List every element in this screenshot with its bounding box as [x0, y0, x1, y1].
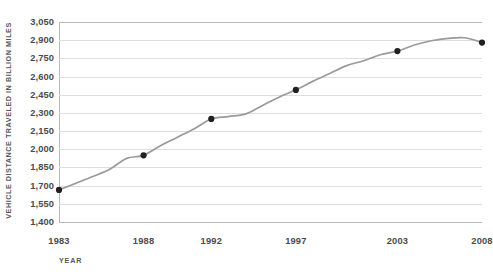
data-point-marker: [141, 152, 147, 158]
y-tick-label: 3,050: [14, 17, 54, 27]
x-tick-label: 1988: [133, 236, 154, 246]
plot-area: [59, 22, 482, 222]
data-point-markers: [56, 40, 485, 193]
y-tick-label: 2,450: [14, 90, 54, 100]
y-tick-label: 1,850: [14, 162, 54, 172]
data-series-layer: [59, 22, 482, 222]
y-tick-label: 2,000: [14, 144, 54, 154]
y-tick-label: 1,700: [14, 181, 54, 191]
x-tick-label: 1983: [48, 236, 69, 246]
y-axis-tick-labels: 1,4001,5501,7001,8502,0002,1502,3002,450…: [14, 0, 54, 240]
y-tick-label: 2,750: [14, 53, 54, 63]
x-axis-title: YEAR: [59, 256, 82, 265]
x-tick-label: 1992: [201, 236, 222, 246]
x-tick-label: 2008: [471, 236, 492, 246]
x-axis-tick-labels: 198319881992199720032008: [0, 236, 491, 250]
y-tick-label: 1,550: [14, 199, 54, 209]
data-point-marker: [56, 187, 62, 193]
data-point-marker: [479, 40, 485, 46]
y-tick-label: 2,900: [14, 35, 54, 45]
y-tick-label: 1,400: [14, 217, 54, 227]
data-point-marker: [394, 48, 400, 54]
y-axis-title-text: VEHICLE DISTANCE TRAVELED IN BILLION MIL…: [4, 22, 13, 219]
data-point-marker: [208, 116, 214, 122]
trend-line: [59, 37, 482, 189]
x-tick-label: 2003: [387, 236, 408, 246]
gridline: [59, 222, 482, 223]
y-tick-label: 2,150: [14, 126, 54, 136]
y-tick-label: 2,600: [14, 72, 54, 82]
data-point-marker: [293, 87, 299, 93]
x-tick-label: 1997: [285, 236, 306, 246]
y-tick-label: 2,300: [14, 108, 54, 118]
